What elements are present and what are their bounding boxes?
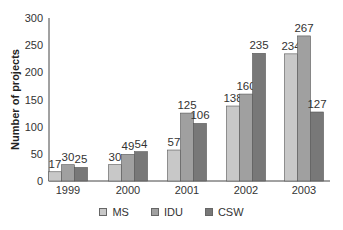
bar-ms-2002 bbox=[227, 106, 240, 181]
value-label: 30 bbox=[62, 151, 75, 163]
legend-label: CSW bbox=[218, 206, 244, 218]
x-tick-label: 2002 bbox=[234, 184, 258, 196]
value-label: 57 bbox=[168, 136, 181, 148]
bar-ms-2003 bbox=[285, 54, 298, 181]
value-label: 30 bbox=[109, 151, 122, 163]
legend-swatch-icon bbox=[205, 208, 213, 216]
bar-idu-2001 bbox=[181, 113, 194, 181]
y-tick-label: 150 bbox=[25, 94, 43, 106]
bar-ms-2000 bbox=[109, 165, 122, 181]
legend-swatch-icon bbox=[99, 208, 107, 216]
legend-label: MS bbox=[112, 206, 129, 218]
bar-csw-2002 bbox=[253, 53, 266, 181]
legend-label: IDU bbox=[164, 206, 183, 218]
bar-csw-2003 bbox=[311, 112, 324, 181]
bar-chart: 050100150200250300Number of projects1730… bbox=[0, 0, 343, 230]
legend-item-csw: CSW bbox=[205, 206, 244, 218]
bar-ms-1999 bbox=[49, 172, 62, 181]
y-tick-label: 200 bbox=[25, 66, 43, 78]
bar-idu-1999 bbox=[62, 165, 75, 181]
value-label: 49 bbox=[122, 140, 135, 152]
legend-swatch-icon bbox=[151, 208, 159, 216]
value-label: 106 bbox=[190, 109, 209, 121]
bar-csw-2000 bbox=[135, 152, 148, 181]
value-label: 267 bbox=[294, 22, 313, 34]
y-tick-label: 50 bbox=[31, 148, 43, 160]
x-tick-label: 2000 bbox=[116, 184, 140, 196]
x-tick-label: 1999 bbox=[56, 184, 80, 196]
y-axis-label: Number of projects bbox=[9, 49, 21, 150]
legend-item-idu: IDU bbox=[151, 206, 183, 218]
x-tick-label: 2003 bbox=[292, 184, 316, 196]
legend-item-ms: MS bbox=[99, 206, 129, 218]
bar-csw-2001 bbox=[194, 123, 207, 181]
value-label: 25 bbox=[75, 153, 88, 165]
legend: MSIDUCSW bbox=[0, 206, 343, 218]
value-label: 17 bbox=[49, 158, 62, 170]
bar-ms-2001 bbox=[168, 150, 181, 181]
y-tick-label: 0 bbox=[37, 175, 43, 187]
y-tick-label: 300 bbox=[25, 12, 43, 24]
value-label: 54 bbox=[135, 138, 148, 150]
y-tick-label: 250 bbox=[25, 39, 43, 51]
value-label: 127 bbox=[307, 98, 326, 110]
bar-idu-2002 bbox=[240, 94, 253, 181]
x-tick-label: 2001 bbox=[175, 184, 199, 196]
y-tick-label: 100 bbox=[25, 121, 43, 133]
value-label: 235 bbox=[249, 39, 268, 51]
bar-idu-2000 bbox=[122, 154, 135, 181]
bar-csw-1999 bbox=[75, 167, 88, 181]
